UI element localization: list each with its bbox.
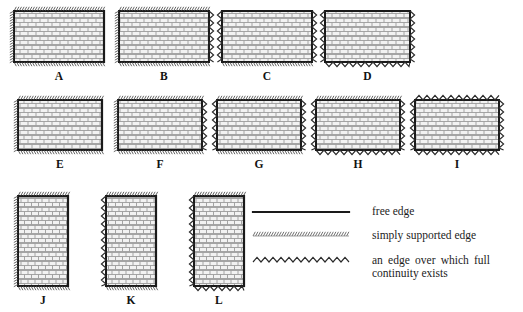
panel-F-brick-fill bbox=[118, 100, 202, 150]
legend-text-free: free edge bbox=[372, 205, 512, 218]
panel-K bbox=[101, 192, 157, 290]
legend-layer bbox=[253, 212, 349, 262]
panel-C-brick-fill bbox=[222, 11, 312, 62]
panel-B-brick-fill bbox=[119, 11, 209, 62]
panel-A-brick-fill bbox=[14, 11, 104, 62]
legend-hatch-simply-supported bbox=[253, 232, 349, 236]
legend-sample-simply_supported bbox=[253, 232, 349, 236]
panel-D bbox=[320, 11, 414, 67]
panel-D-brick-fill bbox=[325, 11, 410, 62]
panel-H-brick-fill bbox=[316, 100, 400, 150]
panel-J bbox=[14, 192, 70, 290]
panel-C bbox=[217, 11, 316, 66]
panel-L-brick-fill bbox=[194, 196, 244, 286]
panel-I-brick-fill bbox=[415, 100, 499, 150]
legend-text-continuous: an edge over which full continuity exist… bbox=[372, 254, 490, 280]
slab-boundary-conditions-figure: ABCDEFGHIJKL free edgesimply supported e… bbox=[0, 0, 523, 312]
panel-L bbox=[189, 192, 245, 291]
panel-F bbox=[114, 96, 207, 154]
panel-label-L: L bbox=[174, 294, 264, 306]
panel-E bbox=[14, 96, 104, 154]
panels-layer bbox=[10, 7, 504, 291]
legend-sample-continuous bbox=[253, 257, 349, 262]
panel-label-D: D bbox=[305, 70, 430, 82]
panel-A bbox=[10, 7, 105, 66]
panel-K-brick-fill bbox=[106, 196, 156, 286]
legend-zigzag-continuity bbox=[253, 257, 349, 262]
panel-I bbox=[410, 95, 503, 154]
panel-label-K: K bbox=[86, 294, 176, 306]
panel-label-J: J bbox=[0, 294, 88, 306]
legend-text-simply_supported: simply supported edge bbox=[372, 229, 512, 242]
panel-E-brick-fill bbox=[18, 100, 102, 150]
panel-H bbox=[311, 96, 404, 155]
panel-G bbox=[212, 96, 305, 154]
panel-B bbox=[115, 7, 214, 66]
panel-G-brick-fill bbox=[217, 100, 301, 150]
panel-label-I: I bbox=[395, 158, 519, 170]
panel-J-brick-fill bbox=[18, 196, 68, 286]
